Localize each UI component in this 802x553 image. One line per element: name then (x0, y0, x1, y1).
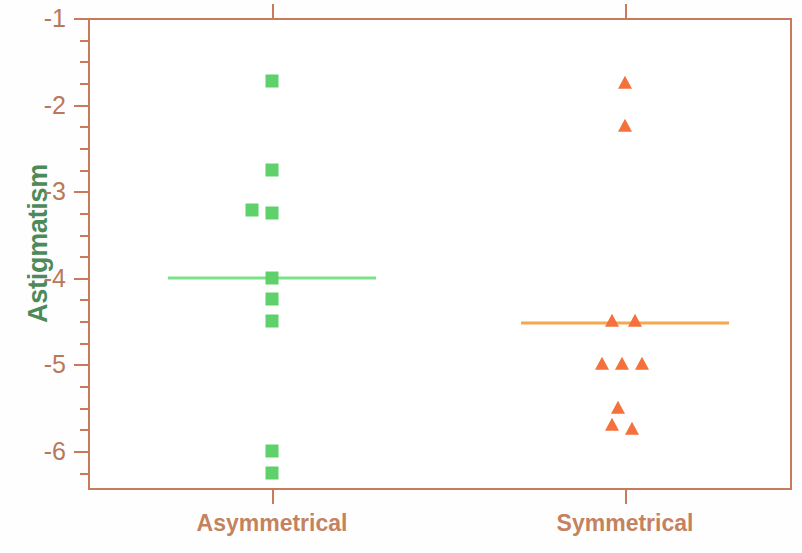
y-axis-tick (74, 191, 88, 193)
y-axis-minor-tick (80, 299, 88, 301)
y-axis-minor-tick (80, 473, 88, 475)
y-axis-tick-label: -5 (6, 350, 66, 379)
y-axis-minor-tick (80, 321, 88, 323)
y-axis-minor-tick (80, 213, 88, 215)
y-axis-minor-tick (80, 170, 88, 172)
y-axis-minor-tick (80, 256, 88, 258)
y-axis-minor-tick (80, 386, 88, 388)
y-axis-title: Astigmatism (23, 114, 54, 374)
y-axis-tick (74, 105, 88, 107)
x-axis-tick-top (272, 4, 274, 18)
y-axis-minor-tick (80, 343, 88, 345)
y-axis-minor-tick (80, 40, 88, 42)
y-axis-tick-label: -3 (6, 177, 66, 206)
x-axis-tick-label-asymmetrical: Asymmetrical (142, 510, 402, 537)
y-axis-minor-tick (80, 408, 88, 410)
y-axis-minor-tick (80, 83, 88, 85)
x-axis-tick-bottom (625, 490, 627, 504)
y-axis-tick-label: -6 (6, 437, 66, 466)
x-axis-tick-label-symmetrical: Symmetrical (495, 510, 755, 537)
y-axis-minor-tick (80, 126, 88, 128)
y-axis-tick-label: -4 (6, 263, 66, 292)
x-axis-tick-bottom (272, 490, 274, 504)
y-axis-minor-tick (80, 148, 88, 150)
plot-frame (88, 18, 792, 490)
y-axis-minor-tick (80, 61, 88, 63)
x-axis-tick-top (625, 4, 627, 18)
y-axis-minor-tick (80, 429, 88, 431)
y-axis-tick-label: -1 (6, 4, 66, 33)
y-axis-tick (74, 18, 88, 20)
y-axis-tick (74, 451, 88, 453)
y-axis-tick-label: -2 (6, 90, 66, 119)
y-axis-tick (74, 278, 88, 280)
y-axis-minor-tick (80, 235, 88, 237)
y-axis-tick (74, 364, 88, 366)
astigmatism-dot-plot: Astigmatism -1-2-3-4-5-6AsymmetricalSymm… (0, 0, 802, 553)
